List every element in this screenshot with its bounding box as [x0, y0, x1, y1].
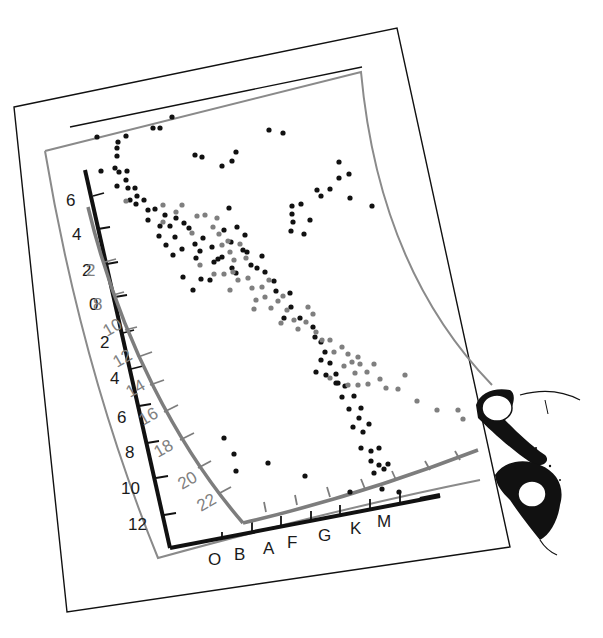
svg-text:10: 10 [121, 479, 140, 498]
svg-text:K: K [350, 519, 362, 538]
svg-text:O: O [208, 550, 221, 569]
svg-text:12: 12 [128, 515, 147, 534]
hr-diagram-illustration: 6 4 2 0 2 4 6 8 10 12 O B A F G K M [0, 0, 603, 638]
svg-text:6: 6 [66, 191, 75, 210]
svg-text:2: 2 [86, 261, 95, 280]
base-paper-sheet [14, 28, 510, 612]
svg-text:F: F [287, 533, 297, 552]
svg-text:M: M [377, 512, 391, 531]
svg-text:6: 6 [117, 408, 126, 427]
svg-text:G: G [318, 526, 331, 545]
svg-text:8: 8 [125, 443, 134, 462]
svg-text:4: 4 [110, 369, 119, 388]
svg-text:4: 4 [72, 225, 81, 244]
svg-text:B: B [234, 545, 245, 564]
svg-text:A: A [263, 539, 275, 558]
svg-text:8: 8 [93, 295, 102, 314]
